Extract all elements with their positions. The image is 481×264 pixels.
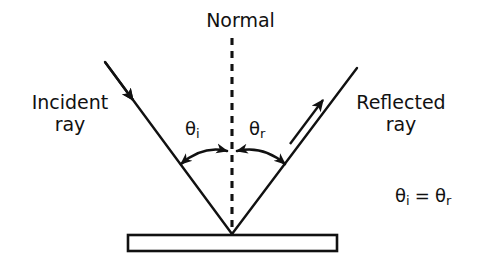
theta-i-subscript: i xyxy=(196,126,200,141)
normal-label: Normal xyxy=(0,10,481,32)
incident-ray-label: Incident ray xyxy=(14,92,126,135)
theta-r-symbol: θ xyxy=(249,118,260,139)
equation-theta-r-subscript: r xyxy=(446,193,452,208)
angle-of-reflection-arc xyxy=(237,150,285,164)
reflected-ray-direction-arrow xyxy=(290,100,323,144)
angle-of-incidence-arc xyxy=(181,150,227,164)
reflected-ray-label-line1: Reflected xyxy=(336,92,466,114)
equation-theta-r-symbol: θ xyxy=(435,185,446,206)
angle-of-reflection-label: θr xyxy=(249,119,266,142)
incident-ray-label-line1: Incident xyxy=(14,92,126,114)
reflected-ray-label: Reflected ray xyxy=(336,92,466,135)
theta-r-subscript: r xyxy=(260,126,266,141)
reflected-ray-label-line2: ray xyxy=(336,114,466,136)
equation-theta-i-subscript: i xyxy=(406,193,410,208)
incident-ray-label-line2: ray xyxy=(14,114,126,136)
theta-i-symbol: θ xyxy=(185,118,196,139)
equation-theta-i-symbol: θ xyxy=(395,185,406,206)
reflection-diagram: Normal Incident ray Reflected ray θi θr … xyxy=(0,0,481,264)
mirror-surface xyxy=(128,235,337,251)
reflection-law-equation: θi=θr xyxy=(395,186,451,209)
angle-of-incidence-label: θi xyxy=(185,119,200,142)
equation-operator: = xyxy=(415,185,430,206)
